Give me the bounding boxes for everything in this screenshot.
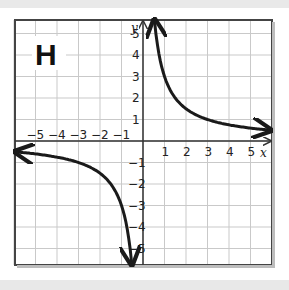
svg-text:−4: −4 — [48, 128, 66, 142]
svg-text:−1: −1 — [113, 128, 131, 142]
frame-shadow — [17, 265, 274, 268]
svg-text:−5: −5 — [27, 128, 45, 142]
frame-shadow-right — [272, 22, 275, 268]
x-axis-label: x — [260, 146, 267, 160]
curve-branch-positive — [155, 22, 269, 130]
svg-text:3: 3 — [132, 70, 140, 84]
svg-text:−1: −1 — [128, 156, 146, 170]
svg-text:1: 1 — [162, 145, 170, 159]
svg-text:3: 3 — [205, 145, 213, 159]
panel-label: H — [35, 38, 57, 71]
svg-text:−2: −2 — [91, 128, 109, 142]
svg-text:2: 2 — [132, 91, 140, 105]
svg-text:2: 2 — [183, 145, 191, 159]
chart: −5−4−3−2−11234554321−1−2−3−4−5 x y H — [0, 0, 289, 290]
svg-text:4: 4 — [132, 48, 140, 62]
svg-text:5: 5 — [248, 145, 256, 159]
svg-text:−3: −3 — [70, 128, 88, 142]
y-axis-label: y — [130, 21, 138, 35]
svg-text:1: 1 — [132, 113, 140, 127]
svg-text:−2: −2 — [128, 177, 146, 191]
curve-branch-negative — [17, 152, 131, 263]
svg-text:4: 4 — [226, 145, 234, 159]
svg-text:−3: −3 — [128, 199, 146, 213]
svg-text:−4: −4 — [128, 220, 146, 234]
